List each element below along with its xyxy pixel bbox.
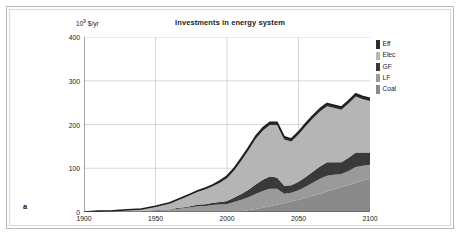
y-axis-tick-label: 100 xyxy=(69,165,80,172)
y-axis-tick-label: 300 xyxy=(69,77,80,84)
figure-frame: Investments in energy system 109 $/yr a … xyxy=(6,6,454,229)
legend-swatch-icon xyxy=(376,74,380,83)
figure-inner-border: Investments in energy system 109 $/yr a … xyxy=(9,9,451,226)
legend-swatch-icon xyxy=(376,63,380,72)
legend-item: GF xyxy=(376,61,446,72)
stacked-area-chart xyxy=(84,37,370,212)
chart-legend: EffElecGFLFCoal xyxy=(376,39,446,95)
y-axis-tick-label: 200 xyxy=(69,121,80,128)
y-axis-tick-label: 400 xyxy=(69,34,80,41)
panel-label: a xyxy=(23,202,27,211)
x-axis-tick-label: 1950 xyxy=(148,215,163,222)
legend-swatch-icon xyxy=(376,52,380,61)
legend-item-label: Coal xyxy=(383,86,397,93)
legend-item-label: Eff xyxy=(383,41,391,48)
plot-area: 010020030040019001950200020502100 xyxy=(84,37,370,212)
x-axis-tick-label: 2050 xyxy=(291,215,306,222)
legend-swatch-icon xyxy=(376,40,380,49)
legend-swatch-icon xyxy=(376,85,380,94)
legend-item: Eff xyxy=(376,39,446,50)
legend-item: LF xyxy=(376,73,446,84)
y-unit-suffix: $/yr xyxy=(86,20,99,27)
legend-item-label: LF xyxy=(383,75,391,82)
y-axis-unit-label: 109 $/yr xyxy=(76,19,99,27)
legend-item-label: GF xyxy=(383,64,392,71)
legend-item: Coal xyxy=(376,84,446,95)
legend-item: Elec xyxy=(376,50,446,61)
legend-item-label: Elec xyxy=(383,52,396,59)
x-axis-tick-label: 2000 xyxy=(219,215,234,222)
x-axis-tick-label: 2100 xyxy=(362,215,377,222)
x-axis-tick-label: 1900 xyxy=(76,215,91,222)
